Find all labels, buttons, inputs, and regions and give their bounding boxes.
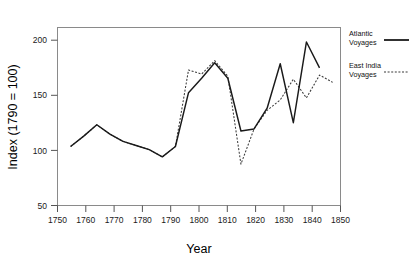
y-tick-label-100: 100 xyxy=(33,146,47,156)
y-axis-title: Index (1790 = 100) xyxy=(6,64,20,169)
x-tick-label-1810: 1810 xyxy=(218,215,237,225)
y-tick-label-50: 50 xyxy=(38,201,48,211)
x-axis-title: Year xyxy=(186,242,211,256)
legend-label-east-india-line1: East India xyxy=(349,61,381,70)
x-tick-label-1790: 1790 xyxy=(161,215,180,225)
legend-label-east-india-line2: Voyages xyxy=(349,70,377,79)
legend-label-atlantic-line2: Voyages xyxy=(349,38,377,47)
legend-label-atlantic-line1: Atlantic xyxy=(349,29,373,38)
line-chart-canvas: 200 150 100 50 Index (1790 = 100) xyxy=(0,0,412,266)
y-tick-label-150: 150 xyxy=(33,90,47,100)
y-tick-label-200: 200 xyxy=(33,35,47,45)
x-tick-label-1750: 1750 xyxy=(48,215,67,225)
x-tick-label-1830: 1830 xyxy=(274,215,293,225)
x-tick-label-1820: 1820 xyxy=(246,215,265,225)
x-tick-label-1840: 1840 xyxy=(303,215,322,225)
x-tick-label-1760: 1760 xyxy=(76,215,95,225)
x-tick-label-1770: 1770 xyxy=(105,215,124,225)
chart-figure: 200 150 100 50 Index (1790 = 100) xyxy=(0,0,412,266)
x-tick-label-1800: 1800 xyxy=(190,215,209,225)
x-tick-label-1780: 1780 xyxy=(133,215,152,225)
x-tick-label-1850: 1850 xyxy=(331,215,350,225)
